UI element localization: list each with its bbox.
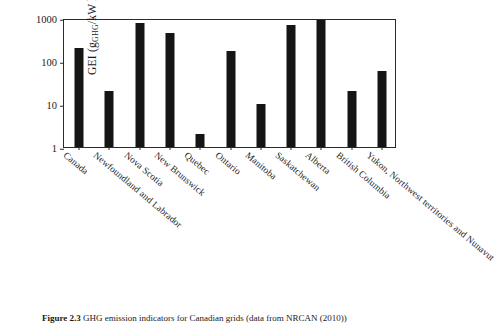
y-axis-tick: 1000	[36, 15, 64, 26]
y-axis-tick-label: 100	[41, 58, 60, 69]
bar	[135, 23, 144, 147]
bar	[256, 104, 265, 147]
x-axis-category-label: Manitoba	[243, 150, 278, 182]
y-axis-tick-label: 1	[52, 144, 60, 155]
figure-caption: Figure 2.3 GHG emission indicators for C…	[42, 313, 442, 324]
x-axis-category-label: Canada	[62, 150, 91, 176]
bar	[377, 71, 386, 147]
bar	[226, 51, 235, 147]
y-axis-tick: 100	[41, 58, 64, 69]
x-axis-category-label: Alberta	[304, 150, 333, 176]
y-axis-tick-label: 10	[47, 101, 61, 112]
x-axis-category-label: Ontario	[213, 150, 242, 177]
x-axis-category-label: Yukon, Northwest territories and Nunavut	[364, 150, 496, 263]
figure-caption-label: Figure 2.3	[42, 313, 81, 323]
bar	[287, 25, 296, 147]
bar	[347, 91, 356, 147]
y-axis-tick: 10	[47, 101, 65, 112]
bar-series	[64, 20, 395, 147]
figure-caption-text: GHG emission indicators for Canadian gri…	[83, 313, 347, 323]
bar	[165, 33, 174, 147]
bar	[105, 91, 114, 147]
x-axis-category-label: British Columbia	[334, 150, 392, 201]
chart-plot-area: GEI (gGHG/kW h) 1101001000	[63, 19, 396, 148]
bar	[196, 134, 205, 147]
bar	[75, 48, 84, 147]
y-axis-tick-label: 1000	[36, 15, 60, 26]
x-axis-category-labels: CanadaNewfoundland and LabradorNova Scot…	[63, 150, 396, 300]
bar	[317, 20, 326, 147]
x-axis-category-label: New Brunswick	[153, 150, 208, 198]
